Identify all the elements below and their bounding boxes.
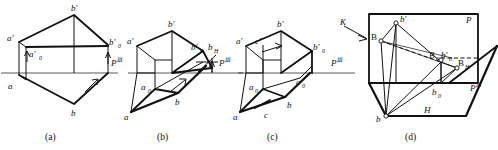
- panel-c-label-b: b: [287, 100, 292, 110]
- panel-b-label-b-prime-zero: b′: [191, 42, 199, 52]
- panel-a-arrow-right: [106, 52, 111, 64]
- panel-d-label-B-zero-sub: 0: [436, 56, 439, 62]
- panel-c-label-b-prime-zero: b′: [313, 42, 321, 52]
- panel-b-label-b-prime-zero-sub: 0: [200, 48, 203, 54]
- panel-a-upper-outline: [19, 15, 108, 45]
- panel-c-lower-inner: [240, 89, 285, 112]
- panel-a: a′ a′ 0 b′ b′ 0 a b P Ⅲ (a): [1, 3, 123, 143]
- panel-a-lower-outline: [19, 73, 108, 104]
- panel-b-label-b-h-sub: H: [213, 48, 219, 54]
- panel-d-point-B: [379, 39, 383, 43]
- panel-d-b-to-BH: [386, 68, 457, 116]
- panel-d-label-B-H: B: [458, 58, 464, 68]
- panel-b-label-a-zero-sub: 0: [148, 88, 151, 94]
- panel-d-label-B-H-sub: H: [464, 64, 470, 70]
- panel-d-small-triangle: [441, 62, 457, 83]
- panel-b-label-b-h: b: [208, 42, 213, 52]
- panel-d-label-ground-sup: Ⅲ: [475, 82, 482, 88]
- panel-c-rot-part: [281, 51, 312, 73]
- panel-a-label-a: a: [8, 81, 13, 91]
- panel-a-caption: (a): [45, 132, 56, 143]
- panel-d-bprime-to-B: [381, 23, 396, 41]
- figure-container: a′ a′ 0 b′ b′ 0 a b P Ⅲ (a) a′ b: [0, 0, 498, 150]
- panel-c: a′ c′ b′ b′ 0 a 0 c 0 a c b P Ⅲ (c): [233, 19, 355, 143]
- panel-a-label-a-prime: a′: [7, 33, 15, 43]
- panel-c-label-b-prime-zero-sub: 0: [322, 48, 325, 54]
- panel-d-label-b-prime-zero: b′: [441, 50, 449, 60]
- panel-d-label-b-zero-sub: 0: [438, 93, 441, 99]
- panel-c-label-a: a: [233, 112, 238, 122]
- panel-c-label-a-prime: a′: [236, 36, 244, 46]
- panel-d-B-to-b: [381, 41, 386, 116]
- panel-d-point-b-prime: [394, 21, 398, 25]
- panel-d-label-b-prime-zero-sub: 0: [449, 56, 452, 62]
- panel-c-label-c: c: [264, 110, 268, 120]
- panel-c-label-c-zero: c: [296, 77, 300, 87]
- panel-d: b′ B B 0 b′ 0 B H b 0 b K P H P Ⅲ (d): [339, 14, 497, 143]
- panel-d-label-b: b: [376, 114, 381, 124]
- panel-b-label-b-prime: b′: [168, 19, 176, 29]
- panel-c-label-b-prime: b′: [277, 19, 285, 29]
- panel-b-label-b: b: [175, 97, 180, 107]
- panel-c-label-c-prime: c′: [255, 36, 262, 46]
- panel-b-label-ground-sup: Ⅲ: [224, 57, 231, 63]
- panel-c-label-c-zero-sub: 0: [302, 83, 305, 89]
- panel-a-label-b: b: [71, 108, 76, 118]
- panel-a-label-a-prime-zero: a′: [29, 49, 37, 59]
- panel-b: a′ b′ b′ 0 b H a 0 a b P Ⅲ (b): [124, 19, 243, 143]
- panel-d-label-B-zero: B: [429, 50, 435, 60]
- panel-a-label-ground-sup: Ⅲ: [116, 57, 123, 63]
- figure-svg: a′ a′ 0 b′ b′ 0 a b P Ⅲ (a) a′ b: [0, 0, 498, 150]
- panel-b-label-ground: P: [218, 58, 225, 68]
- panel-d-label-P: P: [465, 15, 472, 25]
- panel-a-label-ground: P: [110, 58, 117, 68]
- panel-d-label-ground: P: [469, 83, 476, 93]
- panel-c-label-ground: P: [330, 58, 337, 68]
- panel-d-label-b-prime: b′: [400, 14, 408, 24]
- panel-b-label-a: a: [124, 112, 129, 122]
- panel-a-label-b-prime-zero-sub: 0: [118, 43, 121, 49]
- panel-a-a-to-a0: [19, 42, 26, 47]
- panel-d-K-arrow: [344, 26, 367, 41]
- panel-d-caption: (d): [405, 132, 416, 143]
- panel-c-arrow-in: [262, 43, 282, 52]
- panel-d-label-b-zero: b: [432, 87, 437, 97]
- panel-d-label-K: K: [339, 17, 347, 27]
- panel-a-label-b-prime: b′: [71, 3, 79, 13]
- panel-a-arrow-diag: [85, 79, 98, 92]
- panel-b-arrow-diag: [170, 79, 186, 92]
- panel-c-label-ground-sup: Ⅲ: [336, 57, 343, 63]
- panel-d-label-B: B: [371, 32, 377, 42]
- panel-a-label-b-prime-zero: b′: [109, 37, 117, 47]
- panel-d-point-b: [384, 114, 388, 118]
- panel-b-label-a-zero: a: [141, 82, 146, 92]
- panel-d-label-H: H: [423, 105, 431, 115]
- panel-b-caption: (b): [157, 132, 168, 143]
- panel-c-label-a-zero: a: [249, 82, 254, 92]
- panel-d-bprime-to-b: [386, 23, 396, 116]
- panel-c-caption: (c): [267, 132, 278, 143]
- panel-a-a0b0-line: [26, 46, 108, 47]
- panel-a-label-a-prime-zero-sub: 0: [39, 55, 42, 61]
- panel-c-c-edge: [255, 100, 270, 108]
- panel-c-label-a-zero-sub: 0: [255, 88, 258, 94]
- panel-b-label-a-prime: a′: [127, 36, 135, 46]
- panel-b-inner-a: [137, 46, 172, 60]
